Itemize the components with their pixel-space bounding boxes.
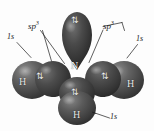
figure-canvas: sp3 sp3 1s 1s 1s N H H H ⇅ ⇅ ⇅ ⇅ (0, 0, 154, 131)
label-sp3-left: sp3 (28, 21, 39, 31)
leader-sp3-right-bracket (122, 23, 125, 31)
atom-label-nitrogen: N (71, 61, 78, 71)
atom-label-hydrogen-right: H (127, 79, 134, 89)
atom-label-hydrogen-bottom: H (73, 110, 80, 120)
electron-pair-bond-bottom: ⇅ (71, 88, 78, 97)
electron-pair-bond-left: ⇅ (36, 72, 43, 81)
electron-pair-lone-top: ⇅ (71, 16, 78, 25)
label-1s-left: 1s (7, 33, 14, 41)
label-sp3-right: sp3 (103, 21, 114, 31)
atom-label-hydrogen-left: H (19, 77, 26, 87)
leader-sp3-left-b (43, 31, 53, 65)
leader-1s-right (127, 45, 138, 59)
electron-pair-bond-right: ⇅ (101, 72, 108, 81)
label-1s-bottom: 1s (110, 113, 117, 121)
label-1s-right: 1s (136, 35, 143, 43)
leader-1s-left (17, 43, 31, 58)
